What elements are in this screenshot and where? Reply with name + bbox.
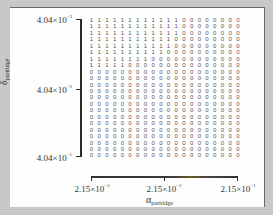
grid-cell: 1 [103,36,110,42]
grid-cell: 0 [188,107,195,113]
grid-cell: 0 [150,56,157,62]
grid-cell: 0 [157,120,164,126]
grid-cell: 0 [204,75,211,81]
grid-cell: 0 [188,127,195,133]
grid-cell: 1 [127,56,134,62]
grid-cell: 0 [103,152,110,158]
grid-cell: 1 [134,49,141,55]
grid-cell: 0 [103,82,110,88]
grid-cell: 0 [227,30,234,36]
grid-cell: 0 [211,146,218,152]
grid-cell: 0 [211,75,218,81]
grid-cell: 0 [196,114,203,120]
grid-cell: 1 [96,30,103,36]
grid-cell: 1 [157,43,164,49]
y-axis-tick [76,89,81,90]
grid-cell: 1 [134,17,141,23]
grid-cell: 1 [119,49,126,55]
grid-cell: 0 [134,140,141,146]
grid-cell: 0 [227,127,234,133]
grid-cell: 0 [227,140,234,146]
grid-cell: 0 [211,62,218,68]
grid-cell: 0 [165,152,172,158]
grid-cell: 0 [211,101,218,107]
grid-cell: 0 [88,101,95,107]
grid-cell: 0 [119,82,126,88]
grid-cell: 0 [134,120,141,126]
grid-cell: 0 [150,69,157,75]
grid-cell: 1 [88,30,95,36]
grid-cell: 1 [111,43,118,49]
grid-cell: 1 [127,43,134,49]
grid-cell: 0 [204,82,211,88]
grid-cell: 0 [103,127,110,133]
grid-cell: 0 [211,17,218,23]
grid-cell: 0 [103,107,110,113]
grid-cell: 1 [173,23,180,29]
grid-cell: 1 [103,62,110,68]
grid-cell: 0 [134,94,141,100]
grid-cell: 1 [142,23,149,29]
grid-cell: 0 [234,94,241,100]
grid-cell: 0 [96,127,103,133]
grid-cell: 0 [227,133,234,139]
grid-cell: 0 [180,23,187,29]
grid-cell: 0 [196,75,203,81]
grid-cell: 0 [188,101,195,107]
grid-cell: 0 [196,88,203,94]
grid-cell: 0 [180,82,187,88]
grid-cell: 0 [188,69,195,75]
grid-cell: 1 [157,30,164,36]
grid-cell: 0 [204,23,211,29]
grid-cell: 0 [96,75,103,81]
grid-cell: 0 [211,43,218,49]
grid-cell: 1 [88,17,95,23]
grid-cell: 0 [150,75,157,81]
grid-cell: 1 [96,23,103,29]
grid-cell: 0 [134,82,141,88]
grid-cell: 0 [111,69,118,75]
grid-cell: 1 [127,49,134,55]
grid-cell: 0 [173,69,180,75]
grid-cell: 0 [88,94,95,100]
grid-cell: 0 [234,23,241,29]
grid-cell: 1 [88,62,95,68]
grid-cell: 0 [204,120,211,126]
grid-cell: 0 [96,140,103,146]
grid-cell: 0 [227,82,234,88]
grid-cell: 1 [103,56,110,62]
grid-cell: 1 [134,36,141,42]
grid-cell: 1 [88,43,95,49]
grid-cell: 0 [165,82,172,88]
grid-cell: 0 [180,101,187,107]
grid-cell: 0 [188,82,195,88]
grid-cell: 1 [134,23,141,29]
grid-cell: 0 [234,107,241,113]
grid-cell: 0 [157,114,164,120]
grid-cell: 0 [234,75,241,81]
grid-cell: 0 [127,107,134,113]
grid-cell: 0 [111,120,118,126]
y-tick-label-top: 4.04×10−3 [12,14,72,25]
grid-cell: 0 [219,43,226,49]
grid-cell: 0 [211,36,218,42]
grid-cell: 0 [211,23,218,29]
grid-cell: 0 [219,94,226,100]
grid-cell: 0 [196,127,203,133]
grid-cell: 0 [88,114,95,120]
grid-cell: 0 [150,120,157,126]
grid-cell: 0 [211,82,218,88]
grid-cell: 0 [134,146,141,152]
grid-cell: 0 [211,127,218,133]
grid-cell: 0 [196,30,203,36]
grid-cell: 0 [173,101,180,107]
grid-cell: 0 [196,62,203,68]
grid-cell: 0 [119,127,126,133]
grid-cell: 0 [227,17,234,23]
grid-cell: 0 [119,107,126,113]
grid-cell: 1 [119,23,126,29]
grid-cell: 0 [88,75,95,81]
grid-cell: 0 [211,56,218,62]
grid-cell: 0 [173,36,180,42]
grid-cell: 0 [119,88,126,94]
